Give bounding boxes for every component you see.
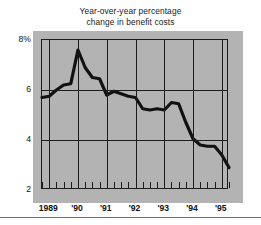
x-axis-minor-tick (171, 182, 172, 188)
x-axis-minor-tick (71, 182, 72, 188)
chart-figure: Year-over-year percentage change in bene… (0, 0, 261, 225)
x-axis-minor-tick (64, 182, 65, 188)
x-tick-label-94: '94 (186, 203, 198, 213)
vertical-gridline-93 (164, 40, 165, 188)
x-axis-minor-tick (143, 182, 144, 188)
vertical-gridline-94 (193, 40, 194, 188)
x-axis-minor-tick (114, 182, 115, 188)
x-axis-minor-tick (100, 182, 101, 188)
vertical-gridline-95 (222, 40, 223, 188)
x-axis-minor-tick (186, 182, 187, 188)
y-axis-tick-labels: 2468% (0, 31, 31, 203)
y-tick-label-4: 4 (5, 134, 31, 144)
x-axis-minor-tick (85, 182, 86, 188)
x-axis-minor-tick (207, 182, 208, 188)
y-tick-label-8: 8% (5, 34, 31, 44)
y-tick-label-6: 6 (5, 84, 31, 94)
horizontal-gridline-4 (42, 140, 227, 141)
x-tick-label-1989: 1989 (39, 203, 58, 213)
x-axis-minor-tick (229, 182, 230, 188)
x-axis-minor-tick (121, 182, 122, 188)
horizontal-gridline-6 (42, 90, 227, 91)
y-tick-label-2: 2 (5, 184, 31, 194)
plot-area (41, 39, 228, 189)
x-axis-minor-tick (179, 182, 180, 188)
x-tick-label-95: '95 (215, 203, 227, 213)
x-axis-minor-tick (92, 182, 93, 188)
x-axis-minor-tick (56, 182, 57, 188)
x-tick-label-91: '91 (100, 203, 112, 213)
x-tick-label-90: '90 (71, 203, 83, 213)
chart-title: Year-over-year percentage change in bene… (0, 6, 261, 28)
x-axis-minor-tick (215, 182, 216, 188)
vertical-gridline-92 (136, 40, 137, 188)
x-axis-minor-tick (128, 182, 129, 188)
chart-title-line-2: change in benefit costs (0, 17, 261, 28)
x-tick-label-93: '93 (157, 203, 169, 213)
vertical-gridline-91 (107, 40, 108, 188)
chart-title-line-1: Year-over-year percentage (0, 6, 261, 17)
vertical-gridline-1989 (49, 40, 50, 188)
footer-divider (0, 217, 261, 218)
vertical-gridline-90 (78, 40, 79, 188)
x-axis-minor-tick (150, 182, 151, 188)
x-axis-tick-labels: 1989'90'91'92'93'94'95 (33, 203, 243, 221)
x-axis-minor-tick (157, 182, 158, 188)
x-axis-minor-tick (42, 182, 43, 188)
x-axis-minor-tick (200, 182, 201, 188)
x-tick-label-92: '92 (129, 203, 141, 213)
